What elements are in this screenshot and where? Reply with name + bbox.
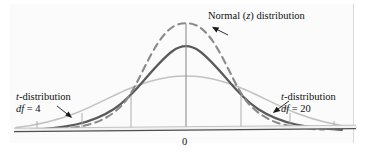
normal-label-suffix: ) distribution <box>250 10 305 21</box>
t4-label-line2: df = 4 <box>16 103 71 115</box>
t20-label-line2: df = 20 <box>281 103 336 115</box>
origin-axis-label: 0 <box>182 136 187 147</box>
t20-label-line1: t-distribution <box>281 91 336 103</box>
t4-df-value: = 4 <box>24 103 40 114</box>
t4-label-line1: t-distribution <box>16 91 71 103</box>
normal-label-prefix: Normal ( <box>208 10 246 21</box>
t20-df-value: = 20 <box>289 103 311 114</box>
t4-label-name: -distribution <box>19 91 71 102</box>
t20-label-name: -distribution <box>284 91 336 102</box>
t20-distribution-label: t-distribution df = 20 <box>281 91 336 115</box>
distribution-comparison-figure: Normal (z) distribution t-distribution d… <box>0 0 367 163</box>
normal-distribution-label: Normal (z) distribution <box>208 10 305 22</box>
t4-distribution-label: t-distribution df = 4 <box>16 91 71 115</box>
t20-df-symbol: df <box>281 103 289 114</box>
normal-label-leader <box>212 27 228 35</box>
t4-df-symbol: df <box>16 103 24 114</box>
